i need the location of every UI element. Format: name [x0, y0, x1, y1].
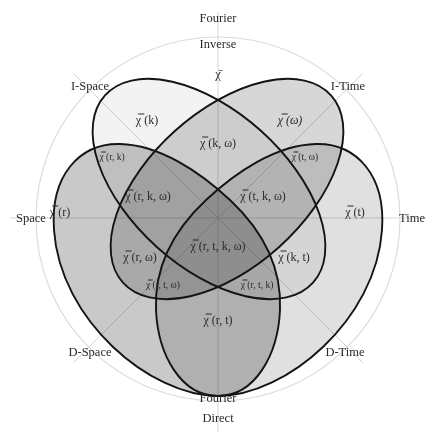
region-r-k: χ̿ (r, k)	[98, 151, 124, 163]
region-t-k-omega: χ̿ (t, k, ω)	[239, 189, 286, 203]
label-fourier-bottom: Fourier	[200, 391, 238, 405]
region-t: χ̿ (t)	[344, 205, 365, 219]
label-chi-bar: χ̄	[214, 67, 223, 81]
region-k: χ̿ (k)	[135, 113, 158, 127]
label-d-space: D-Space	[68, 345, 111, 359]
region-r-t: χ̿ (r, t)	[202, 313, 232, 327]
label-direct: Direct	[202, 411, 234, 425]
venn-diagram: Fourier Inverse Fourier Direct Space Tim…	[0, 0, 434, 441]
region-omega: χ̿ (ω)	[277, 113, 303, 127]
label-time: Time	[399, 211, 425, 225]
label-fourier-top: Fourier	[200, 11, 238, 25]
region-k-omega: χ̿ (k, ω)	[199, 136, 236, 150]
region-r-k-omega: χ̿ (r, k, ω)	[124, 189, 171, 203]
label-i-time: I-Time	[331, 79, 366, 93]
label-d-time: D-Time	[325, 345, 365, 359]
region-k-t: χ̿ (k, t)	[277, 250, 310, 264]
label-i-space: I-Space	[71, 79, 110, 93]
region-r-t-k-omega: χ̿ (r, t, k, ω)	[189, 239, 245, 253]
region-r-omega: χ̿ (r, ω)	[122, 250, 157, 264]
label-space: Space	[16, 211, 46, 225]
label-inverse: Inverse	[200, 37, 237, 51]
region-r: χ̿ (r)	[49, 205, 70, 219]
region-t-omega: χ̿ (t, ω)	[291, 151, 319, 163]
region-r-t-omega: χ̿ (r, t, ω)	[145, 279, 180, 291]
region-r-t-k: χ̿ (r, t, k)	[240, 279, 274, 291]
